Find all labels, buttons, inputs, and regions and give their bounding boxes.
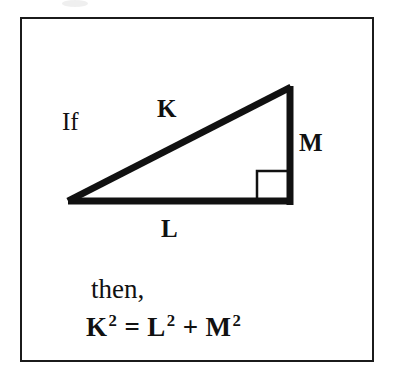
equation-term-1: L2 [147, 312, 175, 342]
equation-term-2: M2 [206, 312, 242, 342]
figure-root: If K M L then, K2=L2+M2 [0, 0, 394, 383]
label-if: If [62, 109, 79, 134]
equation-term-2-base: M [206, 312, 232, 342]
equation-lhs-exponent: 2 [109, 311, 118, 330]
equation-lhs-base: K [86, 312, 108, 342]
pythagorean-equation: K2=L2+M2 [86, 312, 241, 343]
label-base: L [161, 216, 178, 241]
equation-term-1-exponent: 2 [167, 311, 176, 330]
label-then: then, [91, 276, 144, 303]
scan-artifact [62, 0, 88, 7]
figure-frame [20, 17, 374, 362]
equation-lhs: K2 [86, 312, 117, 342]
equation-plus-sign: + [183, 312, 199, 342]
equation-term-1-base: L [147, 312, 166, 342]
label-hypotenuse: K [157, 96, 176, 121]
equation-term-2-exponent: 2 [233, 311, 242, 330]
label-vertical: M [299, 130, 323, 155]
equation-equals-sign: = [124, 312, 140, 342]
